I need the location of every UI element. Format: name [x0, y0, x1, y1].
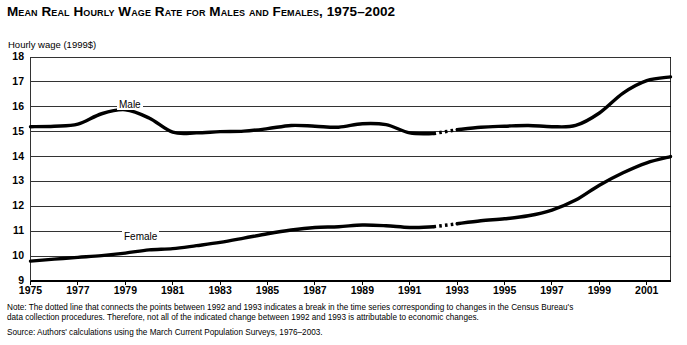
x-tick-label: 1983 — [198, 285, 242, 295]
x-tick-label: 1993 — [435, 285, 479, 295]
y-tick-label: 11 — [2, 225, 24, 235]
chart-notes: Note: The dotted line that connects the … — [7, 303, 683, 339]
series-break-female — [433, 224, 457, 227]
chart-plot-area: 1817161514131211109 19751977197919811983… — [0, 0, 687, 300]
note-text-line-2: data collection procedures. Therefore, n… — [7, 313, 683, 323]
x-tick-label: 1995 — [483, 285, 527, 295]
y-tick-label: 10 — [2, 250, 24, 260]
x-tick-label: 1999 — [577, 285, 621, 295]
gridlines-group — [31, 57, 671, 281]
x-tick-label: 1985 — [246, 285, 290, 295]
y-tick-label: 14 — [2, 151, 24, 161]
series-label-female: Female — [122, 231, 159, 242]
series-label-male: Male — [117, 99, 143, 110]
x-tick-label: 1987 — [293, 285, 337, 295]
source-text: Source: Authors' calculations using the … — [7, 328, 683, 338]
y-tick-label: 18 — [2, 51, 24, 61]
x-tick-label: 1977 — [56, 285, 100, 295]
chart-svg — [0, 0, 687, 300]
x-tick-label: 1979 — [103, 285, 147, 295]
x-tick-label: 1975 — [9, 285, 53, 295]
x-tick-label: 1981 — [151, 285, 195, 295]
y-tick-label: 17 — [2, 76, 24, 86]
series-line-male-seg2 — [457, 77, 670, 130]
x-tick-label: 1997 — [530, 285, 574, 295]
y-tick-label: 12 — [2, 200, 24, 210]
y-tick-label: 16 — [2, 101, 24, 111]
x-tick-label: 1989 — [340, 285, 384, 295]
x-tick-label: 2001 — [625, 285, 669, 295]
y-tick-label: 13 — [2, 175, 24, 185]
series-line-male-seg1 — [31, 110, 434, 134]
axes-group — [31, 57, 671, 281]
series-line-female-seg2 — [457, 157, 670, 224]
x-tick-label: 1991 — [388, 285, 432, 295]
series-line-female-seg1 — [31, 225, 434, 261]
y-tick-label: 15 — [2, 126, 24, 136]
note-text-line-1: Note: The dotted line that connects the … — [7, 303, 683, 313]
